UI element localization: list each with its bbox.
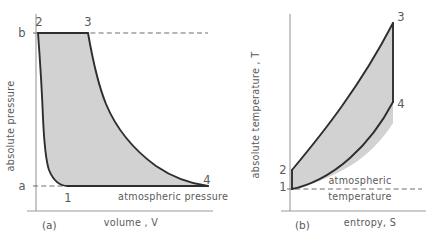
panel-b-x-axis-label: entropy, S xyxy=(344,217,396,228)
panel-b-caption: (b) xyxy=(295,219,310,231)
panel-a-point-3-label: 3 xyxy=(84,15,91,29)
panel-a-tick-lower: a xyxy=(18,179,25,193)
panel-b-point-1-label: 1 xyxy=(279,180,286,194)
panel-a-atmospheric-pressure-note: atmospheric pressure xyxy=(118,191,228,202)
panel-a: b a 2 3 1 4 atmospheric pressure absolut… xyxy=(5,14,228,231)
panel-a-caption: (a) xyxy=(42,219,57,231)
panel-a-point-2-label: 2 xyxy=(35,15,42,29)
panel-b-atmospheric-note-line2: temperature xyxy=(328,191,392,202)
panel-b-point-3-label: 3 xyxy=(397,10,404,24)
panel-a-point-1-label: 1 xyxy=(64,191,71,205)
panel-a-point-4-label: 4 xyxy=(203,173,210,187)
panel-a-x-axis-label: volume , V xyxy=(104,217,158,228)
panel-a-cycle-area xyxy=(38,33,207,186)
panel-b-atmospheric-note-line1: atmospheric xyxy=(328,175,391,186)
panel-b: 2 1 3 4 atmospheric temperature absolute… xyxy=(250,10,426,231)
panel-b-point-2-label: 2 xyxy=(279,163,286,177)
panel-a-y-axis-label: absolute pressure xyxy=(5,81,16,172)
panel-b-point-4-label: 4 xyxy=(397,97,404,111)
panel-a-tick-upper: b xyxy=(18,26,25,40)
thermodynamic-cycle-figure: b a 2 3 1 4 atmospheric pressure absolut… xyxy=(0,0,429,239)
panel-b-y-axis-label: absolute temperature , T xyxy=(250,52,261,179)
